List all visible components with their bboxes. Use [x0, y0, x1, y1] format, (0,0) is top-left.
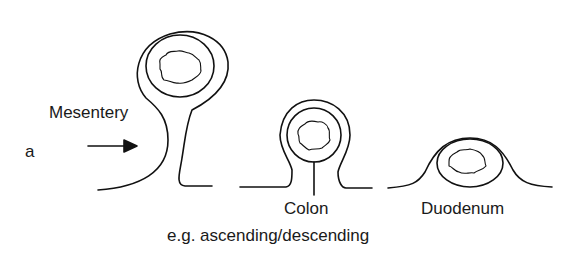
colon-organ: [240, 100, 372, 195]
example-caption: e.g. ascending/descending: [167, 226, 369, 246]
colon-label: Colon: [284, 199, 328, 219]
mesentery-arrowhead: [124, 140, 137, 152]
panel-label: a: [25, 142, 34, 162]
mesentery-label: Mesentery: [49, 103, 128, 123]
duodenum-label: Duodenum: [421, 199, 504, 219]
duodenum-organ: [388, 138, 552, 188]
